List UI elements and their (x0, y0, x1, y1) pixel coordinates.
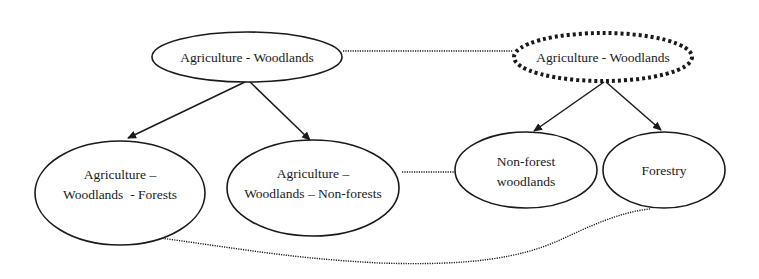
node-label-line-2: Woodlands - Forests (63, 187, 177, 202)
node-label-line-1: Agriculture – (84, 167, 157, 182)
arrow-n1-n3 (128, 81, 247, 138)
node-agriculture-woodlands-non-forests: Agriculture – Woodlands – Non-forests (227, 140, 399, 236)
arrow-n2-n5 (534, 82, 604, 131)
node-label-line-1: Non-forest (497, 154, 556, 169)
node-label-line-1: Agriculture – (277, 166, 350, 181)
node-label-line-2: Woodlands – Non-forests (244, 186, 382, 201)
node-agriculture-woodlands-forests: Agriculture – Woodlands - Forests (35, 141, 205, 245)
arrow-n2-n6 (606, 82, 661, 130)
node-label-line-2: woodlands (497, 174, 556, 189)
node-non-forest-woodlands: Non-forest woodlands (455, 132, 597, 208)
diagram-canvas: Agriculture - Woodlands Agriculture - Wo… (0, 0, 759, 279)
node-label: Forestry (642, 163, 687, 178)
node-forestry: Forestry (603, 132, 725, 208)
node-agriculture-woodlands-left: Agriculture - Woodlands (152, 32, 342, 82)
node-agriculture-woodlands-right: Agriculture - Woodlands (514, 33, 692, 81)
node-label: Agriculture - Woodlands (180, 50, 314, 65)
arrow-n1-n4 (249, 81, 310, 140)
node-label: Agriculture - Woodlands (536, 50, 670, 65)
dotted-curve-n3-n6 (136, 209, 650, 264)
